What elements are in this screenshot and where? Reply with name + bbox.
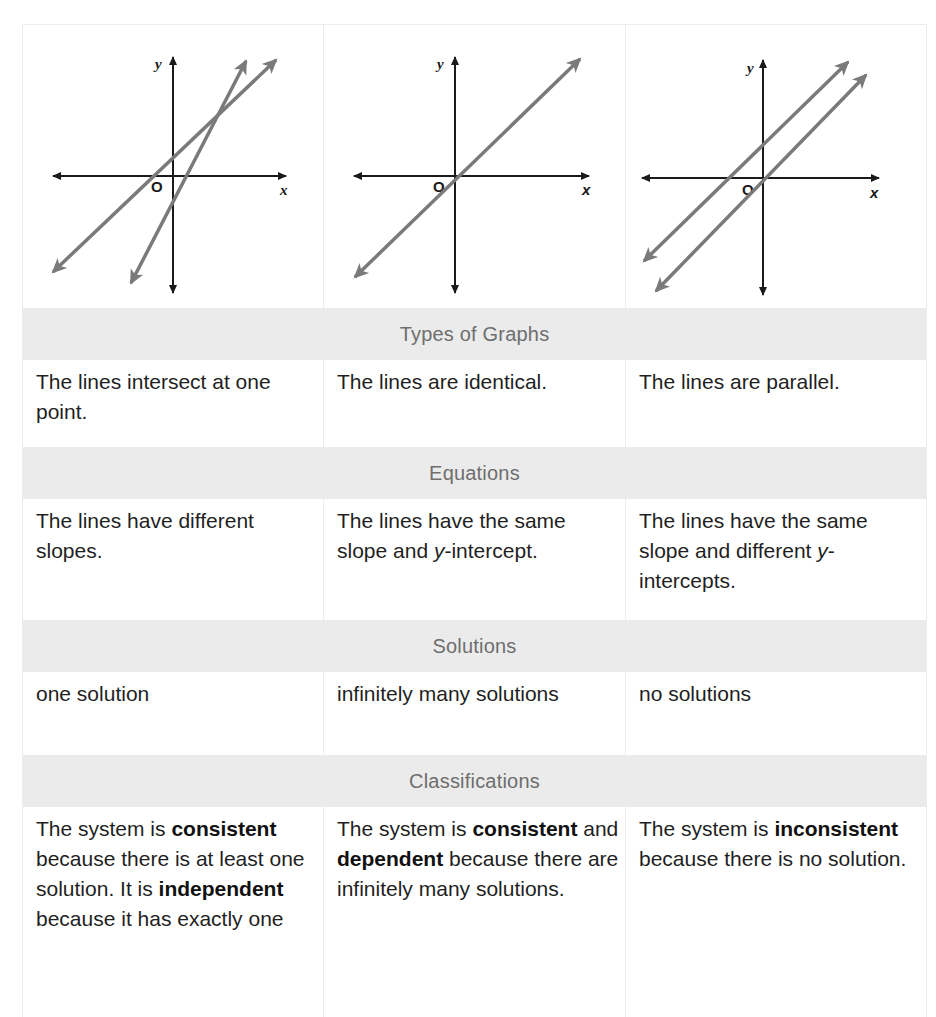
solutions-cell-intersect: one solution [23,672,324,755]
term-dependent: dependent [337,847,443,870]
x-axis-label: x [581,181,591,198]
y-axis-label: y [153,56,162,72]
classifications-row: The system is consistent because there i… [23,807,926,1017]
text-fragment: because it has exactly one [36,907,284,930]
text-fragment: and [577,817,618,840]
term-consistent: consistent [171,817,276,840]
solutions-cell-identical: infinitely many solutions [324,672,626,755]
equations-cell-identical: The lines have the same slope and y-inte… [324,499,626,620]
types-cell-identical: The lines are identical. [324,360,626,447]
section-header-classifications: Classifications [23,755,926,807]
origin-label: O [151,178,163,195]
text-fragment: The system is [337,817,472,840]
equations-row: The lines have different slopes. The lin… [23,499,926,620]
y-variable: y [434,539,445,562]
x-axis-label: x [279,182,288,198]
y-variable: y [817,539,828,562]
y-axis-label: y [745,60,754,76]
types-cell-intersect: The lines intersect at one point. [23,360,324,447]
section-header-equations: Equations [23,447,926,499]
section-header-types: Types of Graphs [23,308,926,360]
types-cell-parallel: The lines are parallel. [626,360,926,447]
x-axis-label: x [869,184,879,201]
y-axis-label: y [435,56,444,72]
text-fragment: -intercept. [444,539,537,562]
graph-intersecting: y x O [23,25,324,308]
graph-parallel: y x O [626,25,926,308]
term-consistent: consistent [472,817,577,840]
term-inconsistent: inconsistent [774,817,898,840]
equations-cell-intersect: The lines have different slopes. [23,499,324,620]
text-fragment: because there is no solution. [639,847,906,870]
term-independent: independent [159,877,284,900]
solutions-row: one solution infinitely many solutions n… [23,672,926,755]
systems-of-equations-table: y x O y x O y x O [22,24,927,1017]
text-fragment: The system is [639,817,774,840]
text-fragment: The system is [36,817,171,840]
section-header-solutions: Solutions [23,620,926,672]
types-row: The lines intersect at one point. The li… [23,360,926,447]
graph-row: y x O y x O y x O [23,25,926,308]
classifications-cell-intersect: The system is consistent because there i… [23,807,324,1017]
equations-cell-parallel: The lines have the same slope and differ… [626,499,926,620]
graph-identical: y x O [324,25,626,308]
classifications-cell-parallel: The system is inconsistent because there… [626,807,926,1017]
classifications-cell-identical: The system is consistent and dependent b… [324,807,626,1017]
solutions-cell-parallel: no solutions [626,672,926,755]
